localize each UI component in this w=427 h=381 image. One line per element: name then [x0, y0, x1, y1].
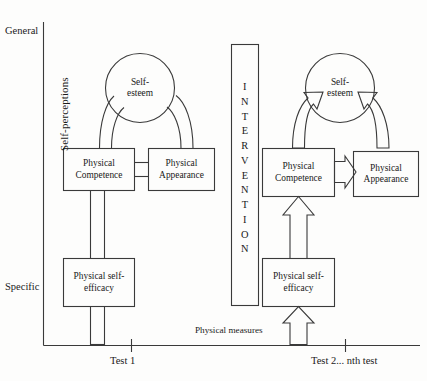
- pre-physical-appearance-label: Physical Appearance: [148, 148, 215, 191]
- pre-edge-appearance-esteem-outer: [176, 96, 193, 149]
- y-axis-bottom-label: Specific: [5, 281, 39, 293]
- intervention-letter: I: [233, 213, 257, 228]
- post-physical-self-efficacy-line1: Physical self-: [273, 271, 324, 282]
- intervention-letter: R: [233, 139, 257, 154]
- post-arrow-efficacy-competence: [283, 197, 314, 259]
- x-tick-label-test-1: Test 1: [110, 355, 135, 367]
- pre-edge-appearance-esteem-inner: [167, 107, 181, 148]
- intervention-label: I N T E R V E N T I O N: [233, 80, 257, 257]
- pre-physical-competence-line2: Competence: [76, 170, 123, 181]
- x-tick-label-test-2: Test 2... nth test: [311, 355, 377, 367]
- pre-edge-competence-esteem-inner: [112, 108, 125, 149]
- post-self-esteem-line1: Self-: [331, 77, 349, 88]
- intervention-letter: N: [233, 242, 257, 257]
- diagram-canvas: General Specific Self-perceptions Test 1…: [0, 0, 427, 381]
- post-physical-self-efficacy-line2: efficacy: [283, 283, 313, 294]
- intervention-letter: E: [233, 169, 257, 184]
- post-self-esteem-line2: esteem: [327, 88, 353, 99]
- intervention-letter: E: [233, 124, 257, 139]
- post-arrow-measures-efficacy: [283, 307, 314, 345]
- pre-physical-self-efficacy-line1: Physical self-: [74, 271, 125, 282]
- pre-self-esteem-line1: Self-: [131, 77, 149, 88]
- post-physical-appearance-line1: Physical: [370, 163, 402, 174]
- pre-physical-appearance-line2: Appearance: [159, 170, 204, 181]
- pre-physical-appearance-line1: Physical: [166, 158, 198, 169]
- post-physical-appearance-label: Physical Appearance: [353, 151, 419, 197]
- y-axis-top-label: General: [5, 25, 38, 37]
- post-self-esteem-label: Self- esteem: [306, 68, 374, 108]
- intervention-letter: V: [233, 154, 257, 169]
- intervention-letter: T: [233, 110, 257, 125]
- intervention-letter: I: [233, 80, 257, 95]
- post-physical-competence-label: Physical Competence: [262, 148, 335, 197]
- intervention-letter: T: [233, 198, 257, 213]
- pre-physical-competence-label: Physical Competence: [63, 148, 135, 191]
- intervention-letter: O: [233, 228, 257, 243]
- post-physical-appearance-line2: Appearance: [364, 174, 409, 185]
- pre-physical-competence-line1: Physical: [83, 158, 115, 169]
- intervention-letter: N: [233, 183, 257, 198]
- pre-physical-self-efficacy-label: Physical self- efficacy: [63, 258, 135, 307]
- pre-physical-self-efficacy-line2: efficacy: [84, 283, 114, 294]
- pre-self-esteem-label: Self- esteem: [106, 68, 174, 108]
- physical-measures-label: Physical measures: [195, 325, 263, 335]
- post-physical-competence-line2: Competence: [275, 173, 322, 184]
- pre-self-esteem-line2: esteem: [127, 88, 153, 99]
- intervention-letter: N: [233, 95, 257, 110]
- post-physical-self-efficacy-label: Physical self- efficacy: [262, 258, 335, 307]
- post-physical-competence-line1: Physical: [283, 161, 315, 172]
